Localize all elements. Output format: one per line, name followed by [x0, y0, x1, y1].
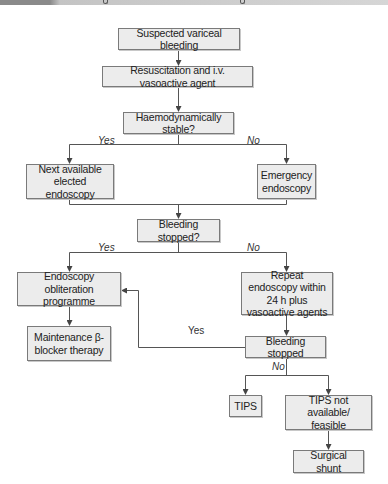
node-emergency-endoscopy: Emergency endoscopy [257, 164, 316, 199]
edge-label-haemo-no: No [247, 135, 260, 147]
node-bleeding-stopped: Bleeding stopped [245, 336, 326, 358]
node-text: Bleeding stopped [249, 335, 322, 360]
node-text: Bleeding stopped? [141, 218, 216, 243]
node-haemodynamically-stable: Haemodynamically stable? [123, 112, 234, 134]
node-text: Haemodynamically stable? [127, 111, 230, 136]
edge-label-haemo-yes: Yes [98, 135, 115, 147]
node-text: Surgical shunt [297, 449, 360, 474]
node-maintenance-beta-blocker: Maintenance β-blocker therapy [27, 326, 111, 361]
node-text: Endoscopy obliteration programme [21, 270, 117, 308]
node-suspected-variceal-bleeding: Suspected variceal bleeding [118, 28, 240, 50]
node-endoscopy-obliteration: Endoscopy obliteration programme [17, 272, 121, 306]
node-text: Next available elected endoscopy [30, 163, 110, 201]
node-resuscitation: Resuscitation and i.v. vasoactive agent [102, 66, 253, 87]
node-surgical-shunt: Surgical shunt [293, 450, 364, 473]
node-text: Maintenance β-blocker therapy [31, 331, 107, 356]
edge-label-loop-yes: Yes [188, 325, 204, 337]
node-next-available-endoscopy: Next available elected endoscopy [26, 164, 114, 199]
edge-label-stopped-yes: Yes [98, 242, 115, 254]
edge-label-stopped-no: No [247, 242, 260, 254]
node-text: Repeat endoscopy within 24 h plus vasoac… [245, 269, 329, 319]
edge-label-final-no: No [272, 361, 285, 373]
node-text: Suspected variceal bleeding [122, 27, 236, 52]
node-repeat-endoscopy: Repeat endoscopy within 24 h plus vasoac… [241, 272, 333, 315]
node-tips: TIPS [229, 395, 262, 417]
node-text: Resuscitation and i.v. vasoactive agent [106, 64, 249, 89]
node-tips-not-available: TIPS not available/ feasible [285, 395, 372, 430]
node-text: Emergency endoscopy [261, 169, 312, 194]
node-text: TIPS [234, 400, 257, 413]
node-bleeding-stopped-question: Bleeding stopped? [137, 219, 220, 242]
node-text: TIPS not available/ feasible [289, 394, 368, 432]
